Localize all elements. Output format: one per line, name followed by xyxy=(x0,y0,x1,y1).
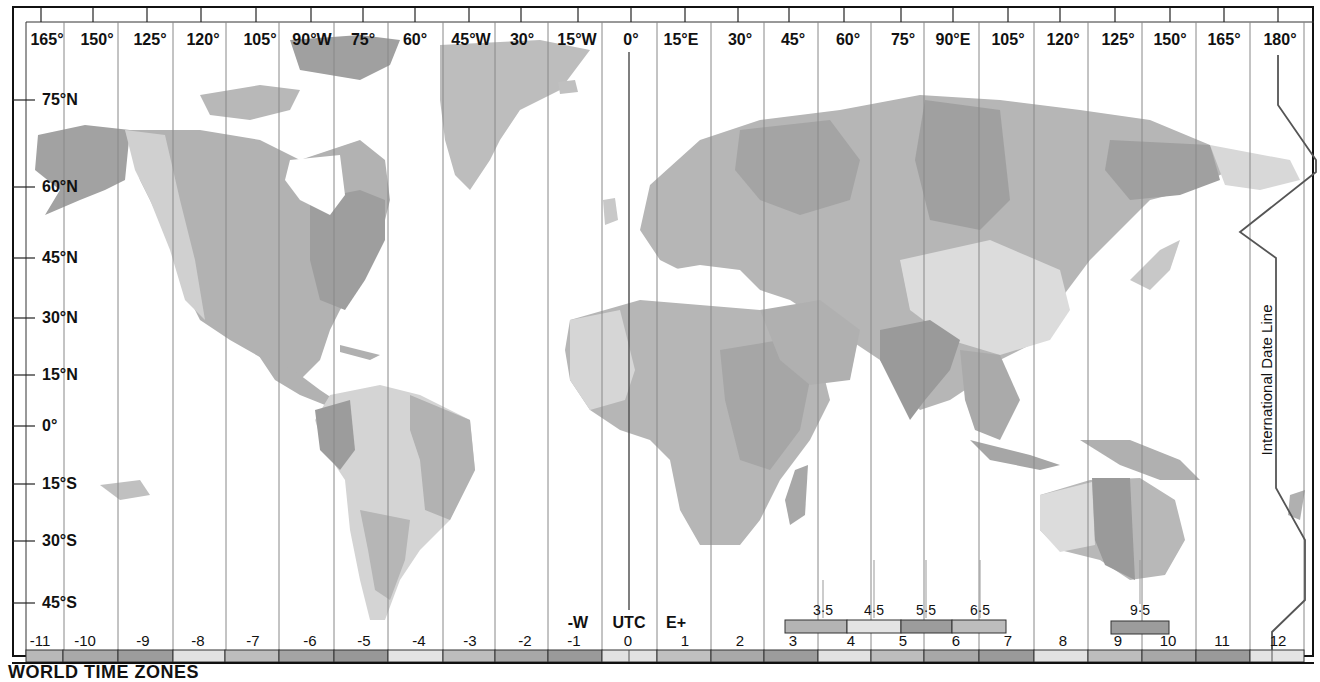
zone-offset-label: 6 xyxy=(952,632,960,649)
longitude-label: 165° xyxy=(1207,31,1240,49)
longitude-label: 125° xyxy=(133,31,166,49)
zone-offset-label: 0 xyxy=(624,632,632,649)
longitude-label: 90°E xyxy=(936,31,971,49)
west-marker: -W xyxy=(568,614,588,632)
longitude-label: 75° xyxy=(351,31,375,49)
half-hour-label: 3·5 xyxy=(813,602,833,618)
date-line-label: International Date Line xyxy=(1258,305,1275,456)
latitude-label: 45°S xyxy=(42,594,77,612)
zone-offset-label: -6 xyxy=(303,632,316,649)
zone-offset-label: -10 xyxy=(74,632,96,649)
half-hour-label: 6·5 xyxy=(970,602,990,618)
longitude-label: 30° xyxy=(510,31,534,49)
zone-offset-label: -8 xyxy=(191,632,204,649)
zone-offset-label: -9 xyxy=(136,632,149,649)
zone-offset-label: -11 xyxy=(30,632,51,649)
zone-shade-bar xyxy=(26,650,1304,662)
latitude-label: 0° xyxy=(42,417,57,435)
longitude-label: 0° xyxy=(623,31,638,49)
longitude-label: 180° xyxy=(1263,31,1296,49)
longitude-label: 120° xyxy=(1046,31,1079,49)
longitude-label: 45° xyxy=(781,31,805,49)
latitude-label: 30°S xyxy=(42,532,77,550)
longitude-label: 90°W xyxy=(292,31,331,49)
zone-offset-label: 1 xyxy=(681,632,689,649)
latitude-label: 45°N xyxy=(42,249,78,267)
longitude-label: 150° xyxy=(80,31,113,49)
longitude-label: 30° xyxy=(728,31,752,49)
zone-offset-label: 12 xyxy=(1270,632,1287,649)
longitude-label: 75° xyxy=(891,31,915,49)
left-ticks xyxy=(12,100,35,603)
zone-offset-label: 9 xyxy=(1114,632,1122,649)
half-hour-label: 4·5 xyxy=(864,602,884,618)
longitude-label: 150° xyxy=(1153,31,1186,49)
half-hour-label: 5·5 xyxy=(916,602,936,618)
longitude-label: 125° xyxy=(1101,31,1134,49)
zone-offset-label: -4 xyxy=(412,632,425,649)
longitude-label: 15°W xyxy=(557,31,596,49)
utc-marker: UTC xyxy=(613,614,646,632)
longitude-label: 105° xyxy=(991,31,1024,49)
latitude-label: 15°N xyxy=(42,366,78,384)
zone-offset-label: -1 xyxy=(567,632,580,649)
map-title: WORLD TIME ZONES xyxy=(8,662,199,682)
zone-offset-label: -7 xyxy=(246,632,259,649)
longitude-label: 45°W xyxy=(451,31,490,49)
zone-offset-label: 10 xyxy=(1160,632,1177,649)
longitude-label: 165° xyxy=(30,31,63,49)
zone-offset-label: -5 xyxy=(357,632,370,649)
half-hour-label: 9·5 xyxy=(1130,602,1150,618)
top-ticks xyxy=(41,8,1278,22)
latitude-label: 60°N xyxy=(42,178,78,196)
zone-offset-label: 2 xyxy=(736,632,744,649)
longitude-label: 120° xyxy=(186,31,219,49)
zone-offset-label: 11 xyxy=(1214,632,1230,649)
date-line xyxy=(1240,55,1316,655)
zone-offset-label: 3 xyxy=(789,632,797,649)
longitude-label: 60° xyxy=(403,31,427,49)
east-marker: E+ xyxy=(666,614,686,632)
zone-offset-label: 5 xyxy=(899,632,907,649)
longitude-label: 60° xyxy=(836,31,860,49)
latitude-label: 15°S xyxy=(42,475,77,493)
zone-offset-label: 8 xyxy=(1059,632,1067,649)
half-hour-legend xyxy=(785,560,1169,634)
zone-offset-label: 4 xyxy=(847,632,855,649)
longitude-label: 15°E xyxy=(664,31,699,49)
latitude-label: 75°N xyxy=(42,91,78,109)
latitude-label: 30°N xyxy=(42,309,78,327)
longitude-label: 105° xyxy=(243,31,276,49)
zone-offset-label: -3 xyxy=(463,632,476,649)
zone-offset-label: 7 xyxy=(1004,632,1012,649)
zone-offset-label: -2 xyxy=(518,632,531,649)
